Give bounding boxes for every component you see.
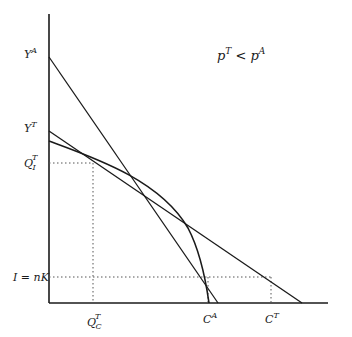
label-qit: QTI	[24, 153, 38, 172]
label-ct: CT	[265, 311, 279, 326]
price-condition-label: pT < pA	[217, 46, 266, 63]
ppf-curve	[49, 141, 209, 303]
label-ca: CA	[203, 311, 217, 326]
trade-price-line	[49, 131, 302, 303]
trade-diagram: pT < pA YA YT QTI I = nK QTC CA CT	[0, 0, 352, 337]
label-investment: I = nK	[12, 271, 50, 284]
label-yt: YT	[24, 120, 37, 135]
autarky-price-line	[49, 57, 218, 303]
label-qct: QTC	[87, 312, 102, 331]
label-ya: YA	[24, 46, 37, 61]
guide-qit-qct	[49, 163, 93, 303]
